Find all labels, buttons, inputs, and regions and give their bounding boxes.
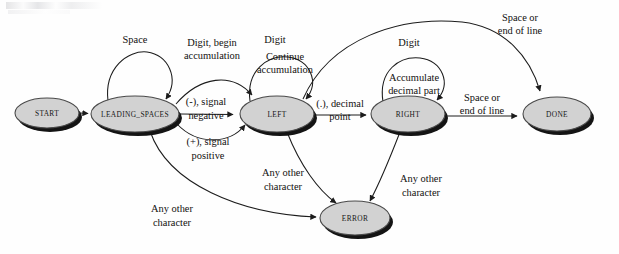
edge-label-space: Space: [123, 34, 148, 45]
edge-label-any-other-left-line1: Any other: [151, 203, 193, 214]
edge-label-minus-line2: negative: [188, 110, 224, 121]
node-right[interactable]: RIGHT: [371, 96, 448, 136]
node-start-label: START: [35, 109, 59, 118]
node-done-label: DONE: [546, 110, 568, 119]
edge-label-any-other-right-line2: character: [402, 187, 441, 198]
edge-label-space-eol-top-line1: Space or: [502, 12, 539, 23]
edge-right-to-error: [370, 132, 400, 201]
node-left[interactable]: LEFT: [240, 96, 317, 136]
edge-label-layer: Space Digit, begin accumulation Digit Co…: [123, 12, 543, 228]
edge-label-plus-line1: (+), signal: [187, 136, 230, 148]
edge-label-plus-line2: positive: [192, 150, 225, 161]
edge-label-digit-begin-line1: Digit, begin: [187, 37, 237, 48]
edge-label-any-other-left-line2: character: [153, 217, 192, 228]
edge-label-space-eol-mid-line1: Space or: [464, 92, 501, 103]
state-machine-diagram: Space Digit, begin accumulation Digit Co…: [0, 0, 619, 254]
diagram-page: Space Digit, begin accumulation Digit Co…: [0, 0, 619, 254]
edge-label-continue-line1: Continue: [266, 51, 304, 62]
edge-start-to-leading-spaces: [80, 113, 88, 114]
node-error-label: ERROR: [342, 214, 368, 223]
edge-label-any-other-right-line1: Any other: [400, 173, 442, 184]
edge-label-any-other-mid-line1: Any other: [262, 167, 304, 178]
node-leading-spaces[interactable]: LEADING_SPACES: [91, 96, 182, 136]
edge-leading-spaces-self-loop: [108, 52, 172, 101]
edge-label-decimal-line1: (.), decimal: [316, 98, 364, 110]
node-start[interactable]: START: [15, 98, 82, 132]
edge-label-accumulate-line1: Accumulate: [389, 72, 440, 83]
edge-label-accumulate-line2: decimal part: [388, 85, 440, 96]
node-leading-spaces-label: LEADING_SPACES: [101, 110, 169, 119]
edge-label-continue-line2: accumulation: [257, 64, 314, 75]
node-left-label: LEFT: [267, 110, 286, 119]
edge-label-decimal-line2: point: [329, 111, 350, 122]
edge-label-digit-left: Digit: [264, 34, 285, 45]
edge-label-minus-line1: (-), signal: [186, 96, 227, 108]
node-done[interactable]: DONE: [523, 97, 594, 135]
node-error[interactable]: ERROR: [320, 201, 393, 239]
edge-label-any-other-mid-line2: character: [264, 181, 303, 192]
edge-label-digit-right: Digit: [398, 37, 419, 48]
edge-label-space-eol-top-line2: end of line: [498, 25, 543, 36]
node-right-label: RIGHT: [396, 110, 420, 119]
edge-label-space-eol-mid-line2: end of line: [460, 105, 505, 116]
edge-label-digit-begin-line2: accumulation: [184, 50, 241, 61]
